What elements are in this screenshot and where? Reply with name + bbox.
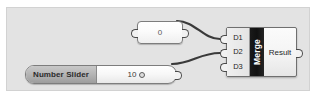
merge-output-section: Result [264, 28, 296, 76]
merge-input-port-d2[interactable] [220, 49, 227, 58]
merge-input-port-d1[interactable] [220, 35, 227, 44]
grasshopper-canvas[interactable]: 0 Number Slider 10 D1 D2 D3 Merge [6, 7, 310, 91]
merge-input-labels: D1 D2 D3 [227, 28, 250, 76]
panel-node[interactable]: 0 [137, 21, 183, 44]
merge-output-port-result[interactable] [296, 49, 303, 58]
number-slider-node[interactable]: Number Slider 10 [25, 65, 177, 84]
merge-title-text: Merge [252, 39, 262, 65]
number-slider-track[interactable]: 10 [97, 66, 176, 83]
merge-input-label-d1: D1 [233, 34, 243, 42]
slider-output-port[interactable] [175, 71, 182, 80]
panel-input-port[interactable] [131, 29, 138, 38]
number-slider-value: 10 [128, 70, 137, 79]
panel-output-port[interactable] [182, 29, 189, 38]
merge-component[interactable]: D1 D2 D3 Merge Result [226, 27, 297, 77]
merge-input-label-d3: D3 [233, 63, 243, 71]
merge-title-band[interactable]: Merge [250, 28, 264, 76]
merge-input-label-d2: D2 [233, 48, 243, 56]
slider-grip-icon[interactable] [139, 72, 145, 78]
screenshot-root: 0 Number Slider 10 D1 D2 D3 Merge [0, 0, 316, 98]
merge-output-label-result: Result [269, 48, 292, 57]
panel-value-text: 0 [138, 22, 182, 43]
number-slider-label: Number Slider [26, 66, 97, 83]
merge-input-port-d3[interactable] [220, 63, 227, 72]
wire-slider-to-d2 [172, 53, 220, 64]
